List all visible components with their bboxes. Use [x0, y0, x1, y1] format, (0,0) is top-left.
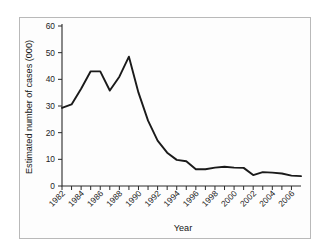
- x-tick-label: 1994: [161, 188, 181, 208]
- x-tick-label: 1990: [123, 188, 143, 208]
- x-tick-label: 1986: [85, 188, 105, 208]
- data-series-line: [62, 57, 301, 176]
- y-tick-label: 0: [50, 181, 55, 191]
- y-axis-tick-labels: 0102030405060: [46, 21, 56, 191]
- y-tick-label: 20: [46, 128, 56, 138]
- y-tick-label: 30: [46, 101, 56, 111]
- y-axis-title: Estimated number of cases (000): [24, 40, 34, 174]
- y-tick-label: 60: [46, 21, 56, 31]
- y-axis-ticks: [58, 26, 62, 186]
- x-tick-label: 1984: [66, 188, 86, 208]
- y-tick-label: 10: [46, 154, 56, 164]
- y-tick-label: 40: [46, 74, 56, 84]
- x-axis-tick-labels: 1982198419861988199019921994199619982000…: [47, 188, 297, 208]
- x-tick-label: 2006: [276, 188, 296, 208]
- line-chart: 0102030405060 19821984198619881990199219…: [0, 0, 332, 249]
- x-tick-label: 2002: [238, 188, 258, 208]
- x-tick-label: 1998: [200, 188, 220, 208]
- x-axis-title: Year: [174, 223, 192, 233]
- x-tick-label: 1996: [181, 188, 201, 208]
- chart-figure: 0102030405060 19821984198619881990199219…: [0, 0, 332, 249]
- x-tick-label: 1988: [104, 188, 124, 208]
- x-tick-label: 2000: [219, 188, 239, 208]
- axes-lines: [62, 24, 301, 186]
- x-tick-label: 2004: [257, 188, 277, 208]
- x-tick-label: 1992: [142, 188, 162, 208]
- y-tick-label: 50: [46, 48, 56, 58]
- x-tick-label: 1982: [47, 188, 67, 208]
